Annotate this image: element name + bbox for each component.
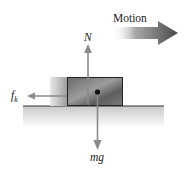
- ground-surface: [23, 106, 164, 128]
- motion-blur: [50, 77, 68, 106]
- weight-label: mg: [90, 152, 104, 164]
- friction-label-subscript: k: [14, 95, 18, 104]
- friction-label: fk: [11, 90, 18, 104]
- motion-arrow: [112, 21, 178, 45]
- normal-force-label: N: [84, 32, 92, 44]
- motion-label: Motion: [113, 13, 147, 25]
- free-body-diagram: [0, 0, 185, 171]
- center-of-mass-dot: [95, 89, 100, 94]
